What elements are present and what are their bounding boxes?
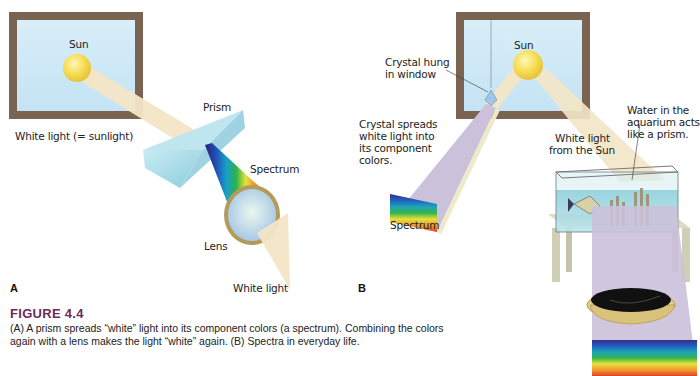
caption-line-1: (A) A prism spreads “white” light into i… <box>10 322 530 335</box>
label-lens: Lens <box>204 240 227 253</box>
panel-a-art <box>9 12 290 290</box>
label-water-3: like a prism. <box>627 128 688 141</box>
label-crystal-hung-1: Crystal hung <box>385 56 449 69</box>
figure-caption: (A) A prism spreads “white” light into i… <box>10 322 530 348</box>
label-crystal-spreads-1: Crystal spreads <box>359 118 437 131</box>
label-white-light-sun-1: White light <box>555 132 610 145</box>
label-sun-a: Sun <box>69 38 88 51</box>
label-white-light-sunlight: White light (= sunlight) <box>15 130 133 143</box>
panel-letter-a: A <box>10 282 18 294</box>
sun-b <box>513 50 543 80</box>
label-spectrum-a: Spectrum <box>250 163 299 176</box>
label-crystal-hung-2: in window <box>385 68 436 81</box>
label-crystal-spreads-2: white light into <box>359 130 435 143</box>
caption-line-2: again with a lens makes the light “white… <box>10 335 530 348</box>
spectrum-floor <box>592 340 697 376</box>
label-spectrum-b: Spectrum <box>390 219 439 232</box>
label-crystal-spreads-3: its component <box>359 142 432 155</box>
label-sun-b: Sun <box>514 39 533 52</box>
panel-letter-b: B <box>358 282 366 294</box>
label-prism: Prism <box>203 101 231 114</box>
sun-a <box>63 54 91 82</box>
label-crystal-spreads-4: colors. <box>359 154 392 167</box>
label-white-light-sun-2: from the Sun <box>549 144 615 157</box>
label-white-light-a: White light <box>233 282 288 295</box>
label-water-1: Water in the <box>627 104 689 117</box>
label-water-2: aquarium acts <box>627 116 700 129</box>
figure-number: FIGURE 4.4 <box>10 306 84 321</box>
